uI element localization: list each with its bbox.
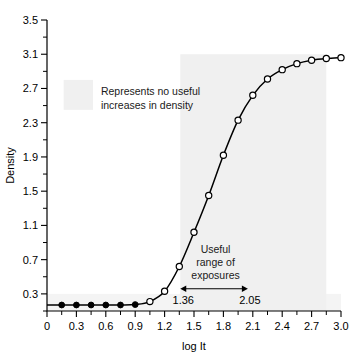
- y-tick-label: 2.3: [23, 117, 38, 129]
- y-tick-label: 1.9: [23, 151, 38, 163]
- x-tick-label: 0: [44, 320, 50, 332]
- data-marker-filled: [74, 302, 80, 308]
- data-marker-filled: [132, 302, 138, 308]
- data-marker-open: [294, 61, 300, 67]
- y-axis-ticks: [41, 20, 47, 311]
- y-tick-label: 0.3: [23, 288, 38, 300]
- x-tick-label: 1.8: [216, 320, 231, 332]
- chart-canvas: 0.30.71.11.51.92.32.73.13.5 00.30.60.91.…: [0, 0, 352, 360]
- data-marker-filled: [88, 302, 94, 308]
- x-tick-label: 1.5: [186, 320, 201, 332]
- y-axis-tick-labels: 0.30.71.11.51.92.32.73.13.5: [23, 14, 38, 300]
- data-marker-open: [323, 55, 329, 61]
- annotation-line: Represents no useful: [101, 85, 200, 97]
- data-marker-open: [191, 229, 197, 235]
- x-tick-label: 2.1: [245, 320, 260, 332]
- characteristic-curve-figure: 0.30.71.11.51.92.32.73.13.5 00.30.60.91.…: [0, 0, 352, 360]
- x-tick-label: 2.4: [275, 320, 290, 332]
- data-marker-open: [206, 192, 212, 198]
- annotation-line: range of: [196, 256, 235, 268]
- data-marker-open: [264, 76, 270, 82]
- data-marker-open: [220, 152, 226, 158]
- x-tick-label: 0.6: [98, 320, 113, 332]
- data-marker-open: [338, 55, 344, 61]
- data-marker-filled: [103, 302, 109, 308]
- annotation-line: exposures: [191, 269, 239, 281]
- x-tick-label: 0.3: [69, 320, 84, 332]
- data-marker-open: [309, 57, 315, 63]
- x-tick-label: 3.0: [333, 320, 348, 332]
- x-axis-ticks: [47, 311, 341, 317]
- data-marker-open: [250, 92, 256, 98]
- y-tick-label: 1.1: [23, 219, 38, 231]
- x-tick-label: 2.7: [304, 320, 319, 332]
- range-end-label: 2.05: [239, 294, 260, 306]
- data-marker-open: [279, 67, 285, 73]
- data-marker-filled: [59, 302, 65, 308]
- y-tick-label: 2.7: [23, 82, 38, 94]
- range-start-label: 1.36: [173, 294, 194, 306]
- x-axis-tick-labels: 00.30.60.91.21.51.82.12.42.73.0: [44, 320, 349, 332]
- data-marker-open: [176, 263, 182, 269]
- legend-swatch-shade: [64, 80, 93, 110]
- y-tick-label: 3.5: [23, 14, 38, 26]
- y-axis-title: Density: [4, 147, 16, 184]
- y-tick-label: 1.5: [23, 185, 38, 197]
- x-tick-label: 1.2: [157, 320, 172, 332]
- y-tick-label: 0.7: [23, 254, 38, 266]
- annotation-line: increases in density: [101, 99, 194, 111]
- data-marker-open: [162, 288, 168, 294]
- x-tick-label: 0.9: [128, 320, 143, 332]
- data-marker-open: [147, 298, 153, 304]
- y-tick-label: 3.1: [23, 48, 38, 60]
- x-axis-title: log It: [182, 340, 206, 352]
- data-marker-open: [235, 117, 241, 123]
- data-marker-filled: [118, 302, 124, 308]
- annotation-line: Useful: [201, 243, 231, 255]
